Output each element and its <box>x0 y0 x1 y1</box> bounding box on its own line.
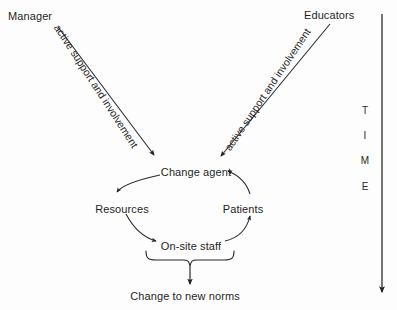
node-label-resources: Resources <box>95 203 148 216</box>
node-label-manager: Manager <box>8 10 52 23</box>
node-label-change-agent: Change agent <box>161 166 231 179</box>
node-label-patients: Patients <box>223 203 264 216</box>
time-letter-t: T <box>358 105 372 116</box>
time-letter-e: E <box>358 181 372 192</box>
arrow-change-agent-to-resources <box>117 175 160 192</box>
arrow-patients-to-change-agent <box>228 171 250 194</box>
diagram-canvas: Manager Educators active support and inv… <box>0 0 397 310</box>
brace-under-on-site-staff <box>146 251 234 266</box>
time-letter-m: M <box>358 155 372 166</box>
diagram-graphics <box>0 0 397 310</box>
arrow-on-site-staff-to-patients <box>225 216 250 241</box>
time-letter-i: I <box>358 130 372 141</box>
arrow-resources-to-on-site-staff <box>126 214 156 241</box>
node-label-on-site-staff: On-site staff <box>161 240 221 253</box>
node-label-educators: Educators <box>304 9 354 22</box>
node-label-change-to-new-norms: Change to new norms <box>130 290 240 303</box>
